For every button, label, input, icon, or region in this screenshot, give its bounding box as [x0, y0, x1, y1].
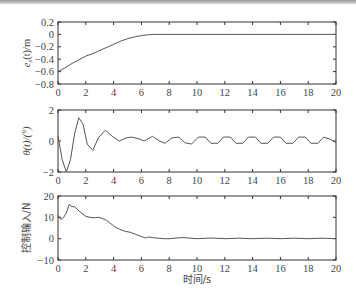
plot-frame [58, 110, 336, 172]
theta-line [58, 118, 336, 172]
y-tick-label: −0.6 [35, 66, 54, 77]
x-tick-label: 6 [139, 263, 144, 274]
x-tick-label: 8 [167, 87, 172, 98]
x-tick-label: 18 [303, 263, 314, 274]
xlabel-time: 时间/s [183, 273, 212, 285]
x-tick-label: 16 [275, 87, 286, 98]
x-tick-label: 4 [111, 263, 117, 274]
x-tick-label: 8 [167, 263, 172, 274]
x-tick-label: 0 [55, 175, 60, 186]
y-tick-label: 0 [49, 29, 54, 40]
plot-es: 0.20−0.2−0.4−0.6−0.802468101214161820 es… [21, 17, 341, 99]
x-tick-label: 10 [192, 87, 203, 98]
x-tick-label: 12 [220, 263, 231, 274]
x-tick-label: 18 [303, 175, 314, 186]
x-tick-label: 4 [111, 175, 117, 186]
y-tick-label: −0.4 [35, 54, 55, 65]
plot-frame [58, 196, 336, 260]
y-tick-label: −0.8 [35, 79, 54, 90]
ylabel-es: es(t)/m [21, 39, 34, 67]
x-tick-label: 20 [331, 175, 342, 186]
x-tick-label: 20 [331, 87, 342, 98]
y-tick-label: −10 [38, 255, 54, 266]
es-line [58, 34, 336, 71]
x-tick-label: 4 [111, 87, 117, 98]
control-line [58, 205, 336, 239]
x-tick-label: 14 [247, 175, 258, 186]
x-tick-label: 0 [55, 87, 60, 98]
plot-theta: 20−202468101214161820 θ(t)/(°) [21, 105, 341, 187]
y-tick-label: 0 [49, 136, 54, 147]
x-tick-label: 0 [55, 263, 60, 274]
y-tick-label: −0.2 [35, 41, 54, 52]
x-tick-label: 16 [275, 263, 286, 274]
y-tick-label: 2 [49, 105, 54, 116]
plot-control: 20100−1002468101214161820 控制输入/N [20, 191, 341, 275]
x-tick-label: 10 [192, 175, 203, 186]
x-tick-label: 20 [331, 263, 342, 274]
x-tick-label: 12 [220, 87, 231, 98]
x-tick-label: 14 [247, 87, 258, 98]
x-tick-label: 12 [220, 175, 231, 186]
x-tick-label: 2 [83, 87, 88, 98]
plot-frame [58, 22, 336, 84]
x-tick-label: 14 [247, 263, 258, 274]
y-tick-label: 0 [49, 233, 54, 244]
x-tick-label: 2 [83, 263, 88, 274]
y-tick-label: 20 [44, 191, 55, 202]
x-tick-label: 6 [139, 175, 144, 186]
figure: 0.20−0.2−0.4−0.6−0.802468101214161820 es… [0, 0, 356, 303]
x-tick-label: 2 [83, 175, 88, 186]
x-tick-label: 8 [167, 175, 172, 186]
x-tick-label: 16 [275, 175, 286, 186]
ylabel-theta: θ(t)/(°) [21, 126, 33, 156]
ylabel-control: 控制输入/N [20, 203, 32, 254]
x-tick-label: 6 [139, 87, 144, 98]
y-tick-label: 0.2 [41, 17, 54, 28]
y-tick-label: −2 [43, 167, 54, 178]
x-tick-label: 10 [192, 263, 203, 274]
x-tick-label: 18 [303, 87, 314, 98]
y-tick-label: 10 [44, 212, 55, 223]
